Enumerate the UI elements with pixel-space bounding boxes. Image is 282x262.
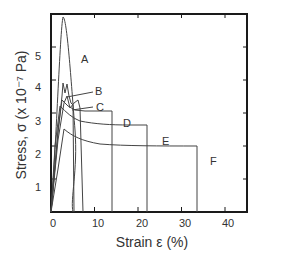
curve-label-d: D [123,117,131,129]
curve-label-c: C [96,101,104,113]
y-tick-label: 1 [35,181,41,193]
curve-label-b: B [95,85,102,97]
y-tick-labels: 1 2 3 4 5 [35,50,41,193]
x-axis-title: Strain ε (%) [116,234,188,250]
y-tick-label: 2 [35,148,41,160]
y-tick-label: 4 [35,81,41,93]
y-tick-label: 3 [35,115,41,127]
x-axis-ticks [95,14,226,212]
x-tick-label: 20 [136,217,148,229]
curve-e [51,106,147,212]
x-tick-label: 40 [222,217,234,229]
curve-label-f: F [210,155,217,167]
x-tick-labels: 0 10 20 30 40 [50,217,234,229]
x-tick-label: 30 [179,217,191,229]
x-tick-label: 0 [50,217,56,229]
y-tick-label: 5 [35,50,41,62]
stress-strain-chart: 0 10 20 30 40 1 2 3 4 5 Strain ε (%) Str… [0,0,282,262]
y-axis-title: Stress, σ (x 10⁻⁷ Pa) [13,51,29,180]
curves [51,17,197,212]
x-tick-label: 10 [92,217,104,229]
curve-a [51,17,76,212]
curve-label-a: A [81,53,89,65]
curve-label-e: E [162,135,169,147]
